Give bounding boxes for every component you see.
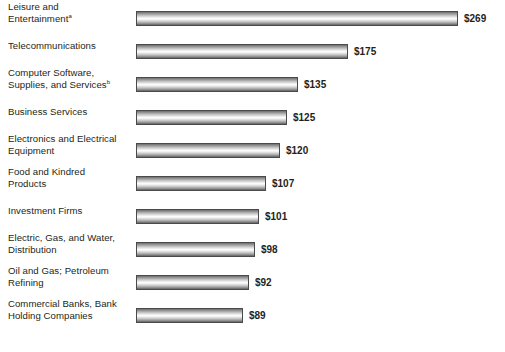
bar-fill — [136, 110, 287, 125]
bar — [136, 242, 255, 257]
chart-row: Leisure andEntertainmenta$269 — [0, 0, 505, 33]
chart-row: Electric, Gas, and Water,Distribution$98 — [0, 231, 505, 264]
bar — [136, 143, 280, 158]
category-label: Electronics and ElectricalEquipment — [8, 133, 130, 156]
category-label-line1: Business Services — [8, 106, 87, 117]
bar — [136, 308, 243, 323]
category-label-line2: Supplies, and Services — [8, 79, 107, 90]
category-label-line2: Holding Companies — [8, 310, 93, 321]
category-label: Food and KindredProducts — [8, 166, 130, 189]
bar-fill — [136, 242, 255, 257]
bar-value-label: $175 — [354, 44, 376, 59]
bar-value-label: $107 — [272, 176, 294, 191]
category-label: Business Services — [8, 106, 130, 118]
chart-row: Computer Software,Supplies, and Services… — [0, 66, 505, 99]
bar-value-label: $98 — [261, 242, 278, 257]
category-label-line2: Products — [8, 178, 46, 189]
category-label: Telecommunications — [8, 40, 130, 52]
category-label-line1: Electronics and Electrical — [8, 133, 116, 144]
bar-value-label: $89 — [249, 308, 266, 323]
bar-chart: Leisure andEntertainmenta$269Telecommuni… — [0, 0, 505, 352]
bar-fill — [136, 77, 298, 92]
bar-fill — [136, 275, 249, 290]
chart-row: Electronics and ElectricalEquipment$120 — [0, 132, 505, 165]
bar — [136, 44, 348, 59]
category-label-line2: Entertainment — [8, 13, 68, 24]
bar — [136, 11, 458, 26]
category-label-line1: Food and Kindred — [8, 166, 85, 177]
bar-value-label: $101 — [265, 209, 287, 224]
category-label: Electric, Gas, and Water,Distribution — [8, 232, 130, 255]
category-label-line2: Equipment — [8, 145, 54, 156]
category-label-line1: Electric, Gas, and Water, — [8, 232, 115, 243]
chart-row: Oil and Gas; PetroleumRefining$92 — [0, 264, 505, 297]
category-label: Computer Software,Supplies, and Services… — [8, 67, 130, 90]
category-label-line1: Leisure and — [8, 1, 59, 12]
category-label: Leisure andEntertainmenta — [8, 1, 130, 24]
bar-value-label: $135 — [304, 77, 326, 92]
category-label: Oil and Gas; PetroleumRefining — [8, 265, 130, 288]
bar-fill — [136, 209, 259, 224]
bar — [136, 110, 287, 125]
category-label-line1: Telecommunications — [8, 40, 96, 51]
category-label-line1: Computer Software, — [8, 67, 94, 78]
bar-fill — [136, 176, 266, 191]
bar-fill — [136, 143, 280, 158]
category-label-line1: Investment Firms — [8, 205, 82, 216]
bar-fill — [136, 44, 348, 59]
bar — [136, 209, 259, 224]
bar-value-label: $92 — [255, 275, 272, 290]
footnote-marker: b — [107, 78, 110, 84]
category-label-line1: Commercial Banks, Bank — [8, 298, 117, 309]
chart-row: Commercial Banks, BankHolding Companies$… — [0, 297, 505, 330]
bar — [136, 275, 249, 290]
category-label-line2: Refining — [8, 277, 44, 288]
bar-fill — [136, 308, 243, 323]
bar-value-label: $269 — [464, 11, 486, 26]
chart-row: Business Services$125 — [0, 99, 505, 132]
bar — [136, 176, 266, 191]
bar-value-label: $120 — [286, 143, 308, 158]
chart-row: Food and KindredProducts$107 — [0, 165, 505, 198]
chart-row: Telecommunications$175 — [0, 33, 505, 66]
bar-value-label: $125 — [293, 110, 315, 125]
category-label-line2: Distribution — [8, 244, 57, 255]
chart-row: Investment Firms$101 — [0, 198, 505, 231]
bar — [136, 77, 298, 92]
category-label: Commercial Banks, BankHolding Companies — [8, 298, 130, 321]
bar-fill — [136, 11, 458, 26]
footnote-marker: a — [68, 12, 71, 18]
category-label: Investment Firms — [8, 205, 130, 217]
category-label-line1: Oil and Gas; Petroleum — [8, 265, 109, 276]
